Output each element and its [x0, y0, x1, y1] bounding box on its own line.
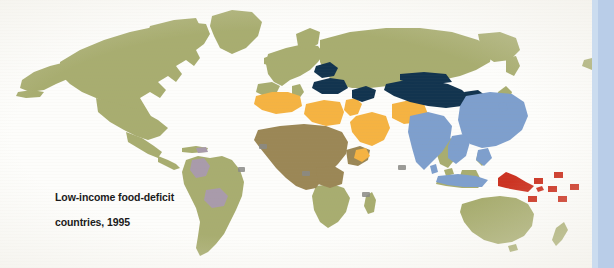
island-marker-box-6 [528, 196, 537, 202]
region-philippines-blue [476, 148, 492, 166]
map-figure: Low-income food-deficit countries, 1995 [0, 0, 614, 268]
region-maghreb [254, 92, 302, 114]
region-ukraine-black-sea [312, 78, 348, 94]
region-arabia [350, 112, 390, 146]
land-kamchatka [506, 56, 520, 76]
island-marker-box-2 [554, 172, 563, 178]
page-edge-strip [592, 0, 614, 268]
island-marker-box-1 [534, 178, 543, 184]
map-label-box-atlantic [238, 167, 245, 172]
caption-line-1: Low-income food-deficit [55, 191, 174, 204]
land-greenland [210, 10, 262, 54]
marker-solomon-trail [536, 186, 544, 192]
marker-papua-new-guinea [498, 172, 534, 192]
region-central-africa [316, 166, 344, 188]
figure-caption: Low-income food-deficit countries, 1995 [55, 178, 174, 241]
region-caribbean-patch [196, 147, 208, 153]
land-europe [266, 44, 324, 86]
brown-group-layer [254, 124, 370, 190]
page-edge-band [592, 0, 598, 268]
land-tasmania [508, 244, 518, 252]
land-new-zealand [552, 222, 568, 246]
region-sri-lanka [430, 164, 438, 174]
region-indochina-blue [448, 134, 470, 164]
map-label-box-west-africa [259, 144, 267, 149]
caption-line-2: countries, 1995 [55, 216, 174, 229]
land-aleutians [16, 90, 44, 98]
island-marker-box-5 [558, 196, 567, 202]
land-southern-africa [312, 184, 350, 228]
island-marker-box-4 [570, 184, 579, 190]
map-label-box-central-africa [302, 171, 310, 176]
island-marker-box-3 [548, 186, 557, 192]
land-australia [460, 196, 534, 244]
land-central-america [158, 156, 180, 170]
region-east-asia [458, 92, 528, 148]
region-egypt-libya [304, 100, 344, 126]
map-label-box-madagascar [362, 192, 370, 197]
map-label-box-indian-ocean [398, 165, 406, 170]
